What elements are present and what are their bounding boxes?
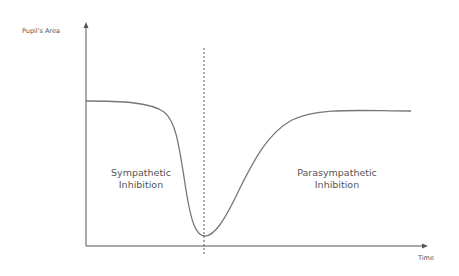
parasympathetic-line2: Inhibition xyxy=(282,179,392,191)
parasympathetic-inhibition-label: Parasympathetic Inhibition xyxy=(282,167,392,191)
sympathetic-line1: Sympathetic xyxy=(98,167,184,179)
x-axis-label: Time xyxy=(418,254,434,262)
pupil-response-diagram xyxy=(0,0,459,276)
y-axis-label: Pupil's Area xyxy=(22,27,60,35)
parasympathetic-line1: Parasympathetic xyxy=(282,167,392,179)
sympathetic-inhibition-label: Sympathetic Inhibition xyxy=(98,167,184,191)
x-axis-arrow-icon xyxy=(422,244,428,249)
sympathetic-line2: Inhibition xyxy=(98,179,184,191)
y-axis-arrow-icon xyxy=(84,22,89,28)
